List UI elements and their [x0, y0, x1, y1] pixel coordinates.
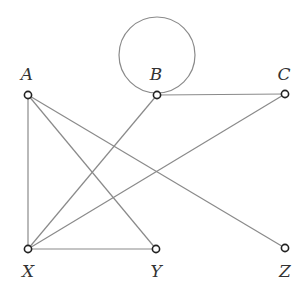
node-z	[281, 244, 288, 251]
node-label-a: A	[19, 64, 33, 84]
node-label-y: Y	[150, 261, 163, 281]
edge-c-x	[28, 94, 285, 249]
node-a	[24, 91, 31, 98]
node-label-c: C	[277, 64, 290, 84]
node-label-b: B	[149, 64, 163, 84]
node-c	[281, 90, 288, 97]
graph-diagram: ABCXYZ	[0, 0, 308, 293]
node-b	[153, 91, 160, 98]
edges-layer	[28, 94, 285, 249]
node-label-x: X	[20, 261, 35, 281]
edge-b-c	[157, 94, 285, 95]
node-x	[24, 245, 31, 252]
node-y	[152, 245, 159, 252]
node-label-z: Z	[278, 261, 292, 281]
